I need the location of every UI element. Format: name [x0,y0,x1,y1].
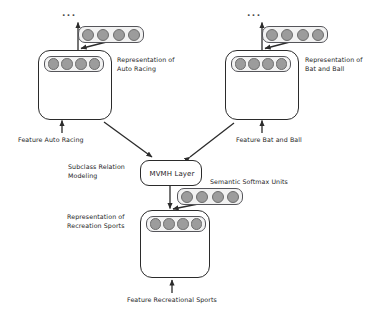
unit-dot [97,29,109,41]
edge-auto-racing-to-mvmh [104,122,152,157]
unit-dot [61,58,73,70]
bat-and-ball-units-pill[interactable] [231,56,291,72]
label-subclass-relation-modeling: Subclass Relation Modeling [68,163,125,180]
unit-dot [89,58,101,70]
unit-dot [181,191,193,203]
ellipsis-right: ... [247,9,261,18]
label-feature-bat-and-ball: Feature Bat and Ball [236,136,302,145]
node-auto-racing[interactable] [38,50,112,120]
node-mvmh-layer[interactable]: MVMH Layer [140,160,202,186]
label-representation-bat-and-ball: Representation of Bat and Ball [305,56,363,73]
unit-dot [235,58,247,70]
label-feature-auto-racing: Feature Auto Racing [18,136,84,145]
bat-and-ball-top-units-pill[interactable] [262,26,328,43]
unit-dot [276,58,288,70]
edge-mvmh-to-bat-ball [190,123,234,157]
unit-dot [163,218,175,230]
unit-dot [248,58,260,70]
unit-dot [297,29,309,41]
unit-dot [48,58,60,70]
auto-racing-units-pill[interactable] [44,56,104,72]
node-bat-and-ball[interactable] [225,50,299,120]
unit-dot [75,58,87,70]
unit-dot [266,29,278,41]
label-representation-auto-racing: Representation of Auto Racing [117,56,175,73]
mvmh-layer-label: MVMH Layer [141,161,203,187]
recreation-sports-units-pill[interactable] [146,216,206,232]
mvmh-hierarchy-diagram: ... ... Representation of Auto Racing Fe… [0,0,386,325]
unit-dot [150,218,162,230]
unit-dot [177,218,189,230]
unit-dot [128,29,140,41]
unit-dot [312,29,324,41]
unit-dot [113,29,125,41]
unit-dot [262,58,274,70]
semantic-softmax-units-pill[interactable] [177,188,243,205]
label-feature-recreational-sports: Feature Recreational Sports [127,296,217,305]
label-semantic-softmax-units: Semantic Softmax Units [210,178,288,187]
unit-dot [212,191,224,203]
unit-dot [196,191,208,203]
unit-dot [281,29,293,41]
unit-dot [82,29,94,41]
ellipsis-left: ... [62,9,76,18]
unit-dot [191,218,203,230]
node-recreation-sports[interactable] [140,210,210,278]
label-representation-recreation-sports: Representation of Recreation Sports [67,213,125,230]
unit-dot [227,191,239,203]
auto-racing-top-units-pill[interactable] [78,26,144,43]
